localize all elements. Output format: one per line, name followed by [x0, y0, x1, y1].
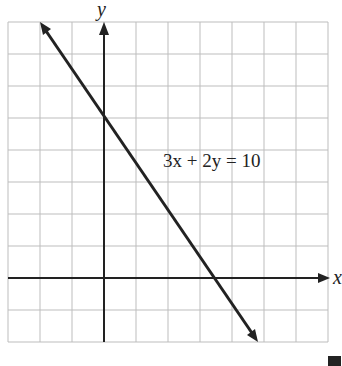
y-axis-label: y	[97, 0, 106, 21]
equation-label: 3x + 2y = 10	[163, 150, 260, 172]
line-arrow-top-icon	[40, 22, 51, 35]
corner-mark	[328, 356, 341, 366]
line-arrow-bottom-icon	[247, 329, 258, 342]
y-axis-arrow-icon	[99, 22, 109, 35]
x-axis-label: x	[333, 266, 342, 289]
